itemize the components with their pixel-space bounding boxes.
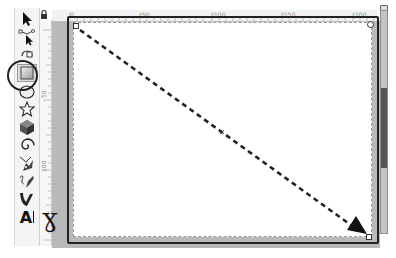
top-left-handle[interactable] xyxy=(73,23,79,29)
dashed-arrow-annotation xyxy=(0,0,396,258)
top-right-round-handle[interactable] xyxy=(367,21,374,28)
bottom-right-handle[interactable] xyxy=(366,234,372,240)
hook-annotation: ɣ xyxy=(42,205,58,231)
